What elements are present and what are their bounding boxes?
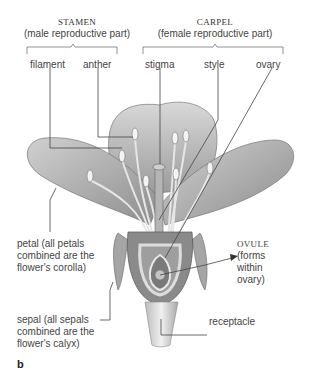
label-petal: petal (all petals combined are the flowe… [17,238,94,274]
figure-label: b [17,358,24,370]
label-ovule-title: OVULE [237,238,269,250]
label-filament: filament [30,59,65,71]
label-receptacle: receptacle [209,316,255,328]
carpel-bracket [143,44,283,54]
label-style: style [204,59,225,71]
label-stigma: stigma [145,59,174,71]
label-anther: anther [83,59,111,71]
label-ovary: ovary [256,59,280,71]
label-sepal: sepal (all sepals combined are the flowe… [17,314,94,350]
label-ovule-note: (forms within ovary) [237,250,265,286]
stamen-bracket [27,44,117,54]
